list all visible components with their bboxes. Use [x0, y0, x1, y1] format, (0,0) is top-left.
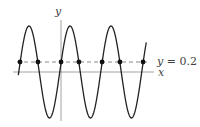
intersection-dot — [18, 60, 23, 65]
intersection-dot — [36, 60, 41, 65]
intersection-dot — [77, 60, 82, 65]
line-equation-value: = 0.2 — [163, 55, 197, 68]
intersection-dot — [59, 60, 64, 65]
intersection-dot — [118, 60, 123, 65]
x-axis-label: x — [158, 67, 164, 78]
intersection-dot — [100, 60, 105, 65]
y-axis-label: y — [55, 6, 61, 17]
intersection-dot — [141, 60, 146, 65]
line-equation-label: y = 0.2 — [157, 56, 197, 67]
